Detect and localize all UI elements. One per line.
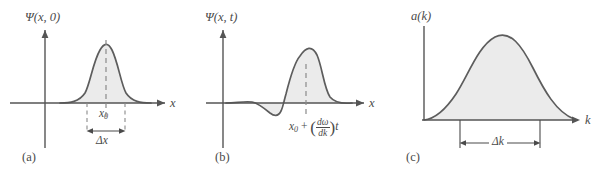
panel-b: Ψ(x, t) x x0 + (dωdk)t (b) — [196, 0, 396, 175]
plus-operator: + — [301, 120, 308, 132]
y-axis-arrowhead — [42, 30, 49, 38]
panel-c-y-axis-label: a(k) — [411, 10, 431, 23]
time-variable: t — [335, 120, 338, 132]
panel-a-x-axis-label: x — [170, 97, 176, 110]
panel-c: a(k) k Δk (c) — [400, 0, 608, 175]
panel-b-plot — [196, 0, 396, 175]
k-axis-arrowhead — [572, 117, 580, 124]
group-velocity-fraction: dωdk — [316, 117, 329, 139]
panel-c-plot — [400, 0, 608, 175]
dispersed-packet-fill-positive — [282, 48, 348, 103]
panel-b-tag: (b) — [215, 151, 230, 164]
panel-a: Ψ(x, 0) x x0 Δx (a) — [0, 0, 200, 175]
x0-subscript: 0 — [104, 112, 108, 121]
x-axis-arrowhead — [157, 100, 165, 107]
panel-c-width-label: Δk — [489, 136, 507, 148]
panel-a-width-label: Δx — [96, 135, 108, 147]
x0-subscript: 0 — [294, 125, 298, 134]
panel-a-tag: (a) — [22, 151, 36, 164]
panel-b-y-axis-label: Ψ(x, t) — [205, 11, 237, 24]
panel-a-plot — [0, 0, 200, 175]
x-axis-arrowhead — [356, 100, 364, 107]
y-axis-arrowhead — [220, 30, 227, 38]
panel-c-tag: (c) — [406, 151, 420, 164]
panel-a-center-tick-label: x0 — [99, 108, 108, 121]
fraction-numerator: dω — [316, 117, 329, 128]
panel-b-center-formula: x0 + (dωdk)t — [289, 117, 338, 139]
panel-b-x-axis-label: x — [369, 97, 375, 110]
fraction-denominator: dk — [316, 128, 329, 138]
dispersed-packet-curve — [226, 48, 352, 115]
panel-a-y-axis-label: Ψ(x, 0) — [25, 11, 60, 24]
panel-c-k-axis-label: k — [585, 114, 591, 127]
